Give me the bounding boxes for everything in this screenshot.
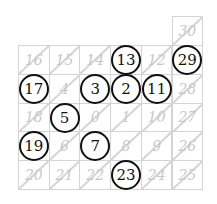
- crossed-number: 22: [80, 161, 110, 189]
- crossed-number: 18: [19, 104, 49, 132]
- crossed-number: 15: [50, 46, 80, 74]
- crossed-number: 0: [80, 104, 110, 132]
- crossed-number: 30: [173, 17, 203, 45]
- grid-cell[interactable]: 12: [141, 45, 173, 75]
- crossed-number: 21: [50, 161, 80, 189]
- crossed-number: 12: [142, 46, 172, 74]
- crossed-number: 24: [142, 161, 172, 189]
- crossed-number: 26: [173, 132, 203, 160]
- crossed-number: 8: [111, 132, 141, 160]
- circled-number[interactable]: 3: [80, 74, 110, 104]
- grid-cell[interactable]: 27: [172, 103, 204, 133]
- grid-cell[interactable]: 22: [79, 160, 111, 190]
- grid-cell[interactable]: 25: [172, 160, 204, 190]
- circled-number[interactable]: 19: [19, 131, 49, 161]
- grid-cell[interactable]: 9: [141, 131, 173, 161]
- crossed-number: 4: [50, 75, 80, 103]
- grid-cell[interactable]: 6: [49, 131, 81, 161]
- grid-cell[interactable]: 14: [79, 45, 111, 75]
- grid-cell[interactable]: 28: [172, 74, 204, 104]
- crossed-number: 25: [173, 161, 203, 189]
- grid-cell[interactable]: 0: [79, 103, 111, 133]
- grid-cell[interactable]: 20: [18, 160, 50, 190]
- crossed-number: 1: [111, 104, 141, 132]
- circled-number[interactable]: 11: [142, 74, 172, 104]
- crossed-number: 20: [19, 161, 49, 189]
- grid-cell[interactable]: 8: [110, 131, 142, 161]
- grid-cell[interactable]: 1: [110, 103, 142, 133]
- crossed-number: 28: [173, 75, 203, 103]
- grid-cell[interactable]: 15: [49, 45, 81, 75]
- grid-cell[interactable]: 10: [141, 103, 173, 133]
- crossed-number: 16: [19, 46, 49, 74]
- grid-cell[interactable]: 4: [49, 74, 81, 104]
- grid-cell[interactable]: 21: [49, 160, 81, 190]
- grid-cell[interactable]: 24: [141, 160, 173, 190]
- grid-cell[interactable]: 16: [18, 45, 50, 75]
- grid-cell[interactable]: 26: [172, 131, 204, 161]
- crossed-number: 9: [142, 132, 172, 160]
- circled-number[interactable]: 23: [111, 160, 141, 190]
- circled-number[interactable]: 2: [111, 74, 141, 104]
- circled-number[interactable]: 13: [111, 45, 141, 75]
- crossed-number: 14: [80, 46, 110, 74]
- crossed-number: 27: [173, 104, 203, 132]
- crossed-number: 10: [142, 104, 172, 132]
- crossed-number: 6: [50, 132, 80, 160]
- grid-cell[interactable]: 18: [18, 103, 50, 133]
- grid-cell[interactable]: 30: [172, 16, 204, 46]
- spiral-number-grid: 3016151413122917432112818501102719678926…: [0, 0, 217, 204]
- circled-number[interactable]: 17: [19, 74, 49, 104]
- circled-number[interactable]: 5: [50, 103, 80, 133]
